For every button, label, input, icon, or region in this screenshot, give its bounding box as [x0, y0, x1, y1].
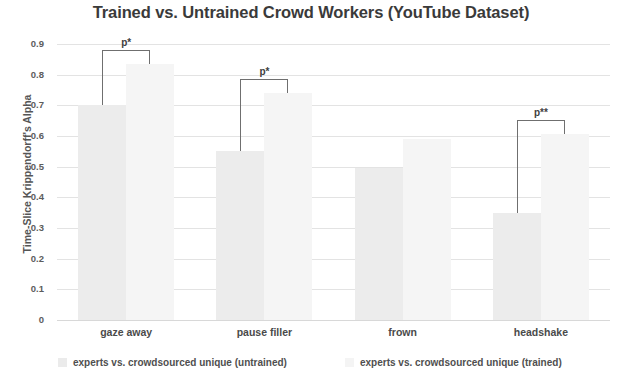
- significance-bracket: [517, 120, 565, 212]
- y-axis-tick-label: 0.6: [0, 131, 44, 141]
- page-title: Trained vs. Untrained Crowd Workers (You…: [0, 3, 622, 22]
- legend-item: experts vs. crowdsourced unique (untrain…: [58, 357, 287, 368]
- x-axis-tick-label: headshake: [471, 326, 611, 338]
- x-axis-tick-label: frown: [333, 326, 473, 338]
- significance-label: p*: [62, 37, 190, 48]
- significance-bracket: [240, 79, 288, 151]
- bar-chart-figure: Trained vs. Untrained Crowd Workers (You…: [0, 0, 622, 381]
- y-axis-tick-label: 0: [0, 315, 44, 325]
- chart-legend: experts vs. crowdsourced unique (untrain…: [0, 357, 622, 377]
- legend-label: experts vs. crowdsourced unique (untrain…: [73, 357, 287, 368]
- legend-swatch-icon: [58, 358, 67, 367]
- y-axis-tick-label: 0.8: [0, 70, 44, 80]
- legend-swatch-icon: [345, 358, 354, 367]
- x-axis-tick-label: pause filler: [194, 326, 334, 338]
- plot-area: 0.90.80.70.60.50.40.30.20.10 p*p*p**: [57, 44, 610, 320]
- significance-label: p**: [477, 107, 605, 118]
- y-axis-tick-label: 0.5: [0, 162, 44, 172]
- y-axis-tick-label: 0.7: [0, 100, 44, 110]
- y-axis-tick-label: 0.1: [0, 284, 44, 294]
- x-axis-tick-label: gaze away: [56, 326, 196, 338]
- bracket-leg-mask: [562, 134, 567, 212]
- y-axis-tick-label: 0.9: [0, 39, 44, 49]
- bracket-leg-mask: [285, 93, 290, 151]
- bar: [78, 105, 126, 320]
- legend-item: experts vs. crowdsourced unique (trained…: [345, 357, 562, 368]
- significance-bracket: [102, 50, 150, 105]
- y-axis-tick-label: 0.3: [0, 223, 44, 233]
- legend-label: experts vs. crowdsourced unique (trained…: [360, 357, 562, 368]
- gridline: [57, 320, 610, 321]
- bar: [493, 213, 541, 320]
- y-axis-tick-label: 0.4: [0, 192, 44, 202]
- bar: [403, 139, 451, 320]
- bar: [216, 151, 264, 320]
- y-axis-tick-label: 0.2: [0, 254, 44, 264]
- significance-label: p*: [200, 66, 328, 77]
- bracket-leg-mask: [147, 64, 152, 105]
- bar: [355, 168, 403, 320]
